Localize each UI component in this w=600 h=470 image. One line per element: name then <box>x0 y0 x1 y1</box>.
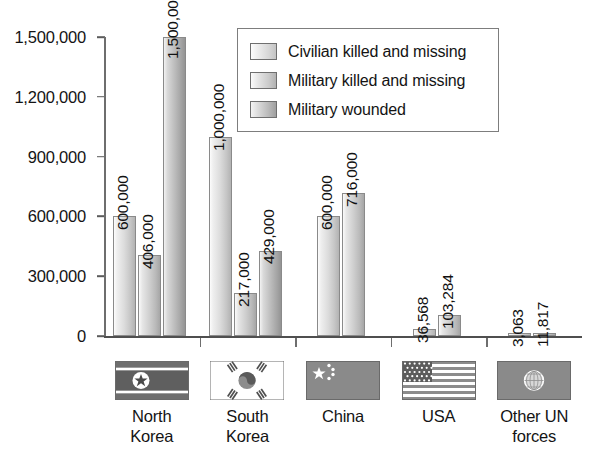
bar-value-label: 11,817 <box>534 302 552 347</box>
legend-swatch-civilian-killed-icon <box>250 43 277 60</box>
bar-value-label: 600,000 <box>318 176 336 231</box>
x-axis-tick-mark <box>200 338 202 347</box>
bar <box>113 216 136 336</box>
y-axis-tick-label: 600,000 <box>28 207 86 226</box>
united-nations-flag <box>497 361 571 400</box>
flag-container <box>295 360 391 400</box>
bar-value-label: 3,063 <box>509 309 527 347</box>
south-korea-flag <box>210 361 284 400</box>
x-axis-category-label: NorthKorea <box>104 406 200 446</box>
x-axis-category: USA <box>391 360 487 426</box>
legend-item: Military killed and missing <box>250 66 488 95</box>
legend-item: Civilian killed and missing <box>250 37 488 66</box>
x-axis-category: NorthKorea <box>104 360 200 446</box>
bar-value-label: 36,568 <box>414 296 432 342</box>
bar-value-label: 1,500,000 <box>164 0 182 59</box>
x-axis-tick-mark <box>391 338 393 347</box>
bar-value-label: 429,000 <box>260 210 278 265</box>
bar-value-label: 716,000 <box>343 153 361 208</box>
legend-swatch-military-wounded-icon <box>250 101 277 118</box>
y-axis-tick-label: 900,000 <box>28 147 86 166</box>
bar-value-label: 406,000 <box>139 214 157 269</box>
flag-container <box>486 360 582 400</box>
legend-label: Civilian killed and missing <box>288 43 466 61</box>
x-axis-category: SouthKorea <box>199 360 295 446</box>
y-axis-labels: 0300,000600,000900,0001,200,0001,500,000 <box>0 0 96 355</box>
y-axis-tick-label: 300,000 <box>28 267 86 286</box>
x-axis-category: Other UNforces <box>486 360 582 446</box>
bar <box>163 37 186 336</box>
x-axis-tick-mark <box>486 338 488 347</box>
legend-label: Military wounded <box>288 101 406 119</box>
usa-flag <box>402 361 476 400</box>
y-axis-tick-label: 1,500,000 <box>14 28 86 47</box>
chart-legend: Civilian killed and missing Military kil… <box>237 28 499 132</box>
flag-container <box>391 360 487 400</box>
x-axis-category-label: SouthKorea <box>199 406 295 446</box>
legend-label: Military killed and missing <box>288 72 465 90</box>
north-korea-flag <box>115 361 189 400</box>
bar-chart: 0300,000600,000900,0001,200,0001,500,000… <box>0 0 600 470</box>
legend-item: Military wounded <box>250 95 488 124</box>
bar-value-label: 600,000 <box>114 176 132 231</box>
y-axis-tick-label: 0 <box>77 327 86 346</box>
bar-value-label: 103,284 <box>439 275 457 330</box>
bar-value-label: 217,000 <box>235 252 253 307</box>
china-flag <box>306 361 380 400</box>
bar-value-label: 1,000,000 <box>210 84 228 151</box>
y-axis-tick-label: 1,200,000 <box>14 87 86 106</box>
flag-container <box>199 360 295 400</box>
bar <box>317 216 340 336</box>
x-axis-category-label: Other UNforces <box>486 406 582 446</box>
bar <box>342 193 365 336</box>
legend-swatch-military-killed-icon <box>250 72 277 89</box>
x-axis-tick-mark <box>295 338 297 347</box>
x-axis-category-label: USA <box>391 406 487 426</box>
x-axis-category-label: China <box>295 406 391 426</box>
bar <box>209 137 232 336</box>
flag-container <box>104 360 200 400</box>
x-axis-category: China <box>295 360 391 426</box>
